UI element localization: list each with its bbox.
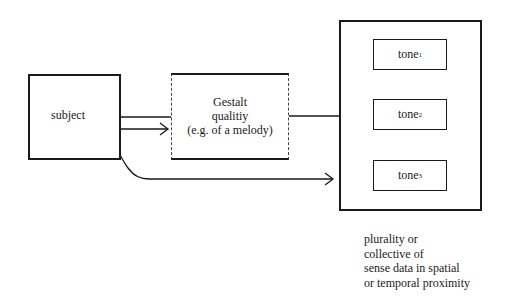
gestalt-quality-label: Gestalt qualitiy (e.g. of a melody) <box>171 95 289 137</box>
gestalt-line-2: qualitiy <box>171 109 289 123</box>
tone-2-label: tone <box>398 107 419 122</box>
gestalt-line-3: (e.g. of a melody) <box>171 123 289 137</box>
tone-1-label: tone <box>398 47 419 62</box>
caption-line-1: plurality or <box>364 232 470 247</box>
plurality-caption: plurality or collective of sense data in… <box>364 232 470 290</box>
subject-label: subject <box>28 108 108 122</box>
tone-3-label: tone <box>398 168 419 183</box>
caption-line-3: sense data in spatial <box>364 261 470 276</box>
caption-line-2: collective of <box>364 247 470 262</box>
tone-3-node: tone3 <box>373 160 447 191</box>
caption-line-4: or temporal proximity <box>364 276 470 291</box>
tone-1-index: 1 <box>419 51 423 59</box>
gestalt-line-1: Gestalt <box>171 95 289 109</box>
tone-1-node: tone1 <box>373 39 447 70</box>
tone-2-index: 2 <box>419 111 423 119</box>
tone-3-index: 3 <box>419 172 423 180</box>
tone-2-node: tone2 <box>373 99 447 130</box>
